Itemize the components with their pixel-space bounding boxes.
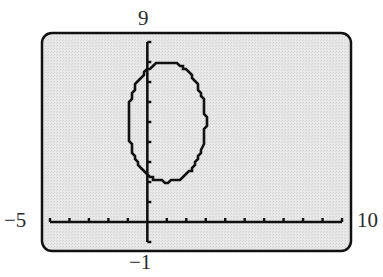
y-max-label: 9 [138,8,149,29]
x-min-label: −5 [4,210,26,231]
y-min-label: −1 [129,252,151,273]
graphing-calculator-screen [0,0,383,277]
x-max-label: 10 [357,210,378,231]
